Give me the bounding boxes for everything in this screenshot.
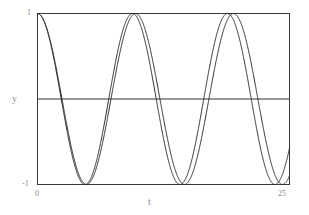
- y-axis-tick-max: 1: [27, 9, 31, 17]
- figure-background: [0, 0, 309, 215]
- y-axis-tick-min: -1: [22, 180, 29, 188]
- x-axis-label: t: [148, 197, 151, 207]
- y-axis-label: y: [12, 94, 17, 104]
- x-axis-tick-min: 0: [35, 190, 39, 198]
- chart-figure: y t 1 -1 0 25: [0, 0, 309, 215]
- x-axis-tick-max: 25: [278, 190, 286, 198]
- plot-area: [0, 0, 309, 215]
